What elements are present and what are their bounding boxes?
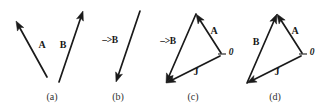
panel-b-vector-negB-shaft (118, 11, 140, 76)
panel-c-vector-A-arrowhead (196, 14, 204, 24)
panel-c-caption: (c) (187, 92, 198, 102)
panel-d-caption: (d) (269, 92, 281, 102)
panel-c-label-A: A (210, 26, 217, 36)
panel-a-label-A: A (38, 40, 45, 50)
panel-d-label-A: A (291, 26, 298, 36)
panel-d-label-J: J (275, 67, 280, 77)
panel-a-caption: (a) (46, 92, 57, 102)
vector-figure: AB(a)–>B(b)–>BAJ0(c)BAJ0(d) (0, 0, 327, 111)
panel-a-vector-A-shaft (19, 27, 47, 77)
panel-d-vector-B-shaft (247, 20, 274, 83)
panel-d-vector-A-arrowhead (277, 14, 285, 24)
panel-a-label-B: B (60, 40, 67, 50)
panel-d-origin-label: 0 (310, 48, 315, 58)
panel-c-origin-label: 0 (229, 48, 234, 58)
panel-b-label-negB: –>B (102, 36, 118, 46)
panel-b-caption: (b) (112, 92, 124, 102)
panel-d-label-B: B (253, 37, 260, 47)
panel-c-label-negB: –>B (160, 37, 176, 47)
panel-c-label-J: J (194, 67, 199, 77)
